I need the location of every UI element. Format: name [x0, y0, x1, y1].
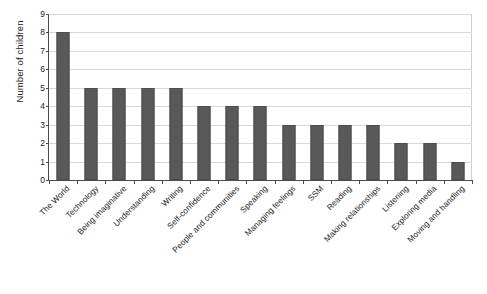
y-tick-label: 2 [40, 139, 45, 148]
x-axis-label: Managing feelings [243, 184, 297, 238]
bar-slot [77, 14, 105, 180]
plot-area: 0123456789 [48, 14, 472, 181]
bar-slot [246, 14, 274, 180]
bar-slot [416, 14, 444, 180]
bar-slot [190, 14, 218, 180]
x-axis-label: Reading [326, 184, 354, 212]
x-axis-label: SSM [307, 184, 326, 203]
bar-slot [303, 14, 331, 180]
y-tick-label: 8 [40, 28, 45, 37]
bar[interactable] [254, 106, 267, 180]
y-tick-label: 6 [40, 65, 45, 74]
bar[interactable] [85, 88, 98, 180]
y-tick-label: 7 [40, 47, 45, 56]
bar[interactable] [339, 125, 352, 180]
y-tick-label: 5 [40, 84, 45, 93]
x-axis-label: Making relationships [322, 184, 382, 244]
x-axis-labels: The WorldTechnologyBeing imaginativeUnde… [48, 181, 472, 294]
x-axis-label: Writing [160, 184, 185, 209]
bar[interactable] [57, 32, 70, 180]
bar[interactable] [282, 125, 295, 180]
y-axis-title: Number of children [14, 0, 25, 137]
bar-chart: Number of children 0123456789 The WorldT… [0, 0, 487, 294]
bar[interactable] [169, 88, 182, 180]
bar-slot [49, 14, 77, 180]
bar-slot [387, 14, 415, 180]
bar-slot [218, 14, 246, 180]
bar[interactable] [310, 125, 323, 180]
y-tick-label: 3 [40, 120, 45, 129]
x-tick-mark [472, 180, 473, 184]
y-tick-label: 9 [40, 10, 45, 19]
bar-slot [162, 14, 190, 180]
bar[interactable] [226, 106, 239, 180]
bar[interactable] [395, 143, 408, 180]
bar-slot [275, 14, 303, 180]
bar-slot [444, 14, 472, 180]
bar[interactable] [367, 125, 380, 180]
bar-slot [134, 14, 162, 180]
bar[interactable] [198, 106, 211, 180]
bar[interactable] [113, 88, 126, 180]
x-axis-label: Being imaginative [76, 184, 129, 237]
y-tick-label: 0 [40, 176, 45, 185]
bar[interactable] [141, 88, 154, 180]
bar-slot [105, 14, 133, 180]
bar-slot [331, 14, 359, 180]
bar[interactable] [451, 162, 464, 180]
bar-slot [359, 14, 387, 180]
bars [49, 14, 472, 180]
x-axis-label: Moving and handling [406, 184, 466, 244]
bar[interactable] [423, 143, 436, 180]
y-tick-label: 1 [40, 157, 45, 166]
y-tick-label: 4 [40, 102, 45, 111]
